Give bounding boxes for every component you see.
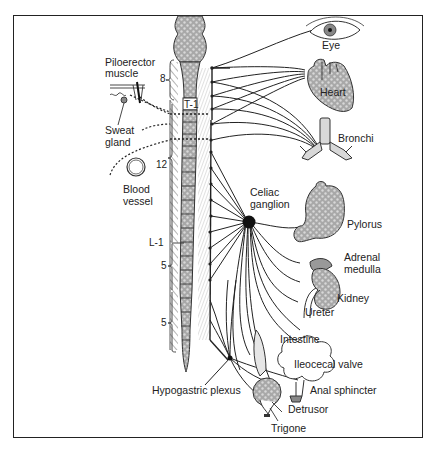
stomach-art (294, 182, 344, 242)
label-sweat-gland: gland (105, 136, 131, 148)
skin-detail-art (110, 82, 145, 125)
label-bronchi: Bronchi (338, 132, 374, 144)
label-pylorus: Pylorus (347, 218, 382, 230)
label-heart: Heart (320, 86, 346, 98)
sympathetic-nervous-system-diagram: 8 T-1 12 L-1 5 5 Piloerector muscle Swea… (0, 0, 437, 450)
label-lumbar-5: 5 (161, 260, 167, 272)
label-kidney: Kidney (337, 292, 369, 304)
label-blood: Blood (123, 183, 150, 195)
label-ureter: Ureter (305, 306, 334, 318)
label-piloerector-muscle: muscle (105, 67, 138, 79)
eye-art (306, 17, 364, 39)
label-sweat: Sweat (105, 124, 134, 136)
label-celiac: Celiac (250, 186, 279, 198)
sympathetic-chain (210, 68, 230, 360)
label-adrenal: Adrenal (344, 251, 380, 263)
label-ileocecal-valve: Ileocecal valve (294, 358, 363, 370)
celiac-ganglion-dot (243, 216, 256, 229)
blood-vessel-art (127, 158, 145, 176)
label-sacral-5: 5 (161, 317, 167, 329)
label-trigone: Trigone (271, 422, 306, 434)
label-blood-vessel: vessel (123, 195, 153, 207)
label-detrusor: Detrusor (288, 403, 328, 415)
label-celiac-ganglion: ganglion (250, 198, 290, 210)
bladder-art (253, 378, 282, 421)
label-intestine: Intestine (280, 333, 320, 345)
label-hypogastric-plexus: Hypogastric plexus (152, 384, 241, 396)
label-t1: T-1 (184, 99, 198, 111)
thoracic-nerves (212, 30, 320, 150)
label-adrenal-medulla: medulla (344, 263, 381, 275)
label-thoracic-12: 12 (156, 159, 167, 171)
label-anal-sphincter: Anal sphincter (310, 384, 377, 396)
label-eye: Eye (322, 39, 340, 51)
label-cervical-8: 8 (160, 73, 166, 85)
label-l1: L-1 (149, 237, 163, 249)
